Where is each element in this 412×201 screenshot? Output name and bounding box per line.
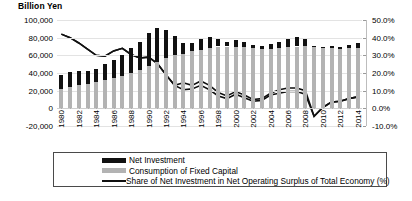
bar-segment-consumption-fixed-capital	[286, 47, 290, 108]
y2-axis-tick-mark	[363, 91, 366, 92]
right-axis-line	[366, 20, 367, 126]
y-axis-right: 50.0%40.0%30.0%20.0%10.0%0.0%-10.0%	[366, 20, 412, 126]
x-axis-tick-label: 2006	[284, 110, 293, 128]
figure-caption	[0, 189, 412, 201]
bar-segment-net-investment	[190, 43, 194, 52]
y-axis-left: 100,00080,00060,00040,00020,0000-20,000	[0, 20, 53, 126]
x-axis-tick-label: 2008	[301, 110, 310, 128]
bar-segment-consumption-fixed-capital	[68, 87, 72, 109]
x-axis-tick-mark	[175, 107, 176, 109]
chart-legend: Net Investment Consumption of Fixed Capi…	[53, 152, 387, 187]
bar-segment-net-investment	[155, 28, 159, 62]
x-axis-tick-mark	[227, 107, 228, 109]
bar-segment-net-investment	[356, 43, 360, 47]
x-axis-tick-mark	[323, 107, 324, 109]
bar-segment-consumption-fixed-capital	[251, 48, 255, 108]
bar-segment-consumption-fixed-capital	[242, 47, 246, 108]
bar-segment-net-investment	[164, 30, 168, 57]
bar-segment-net-investment	[199, 39, 203, 49]
x-axis-tick-mark	[314, 107, 315, 109]
bar-segment-net-investment	[68, 72, 72, 87]
bar-segment-net-investment	[312, 46, 316, 47]
bar-segment-net-investment	[138, 42, 142, 71]
bar-segment-net-investment	[251, 45, 255, 48]
x-axis-tick-label: 2012	[336, 110, 345, 128]
x-axis-tick-label: 2000	[232, 110, 241, 128]
bar-segment-consumption-fixed-capital	[216, 47, 220, 109]
x-axis-tick-mark	[79, 107, 80, 109]
x-axis-tick-mark	[149, 107, 150, 109]
bar-segment-consumption-fixed-capital	[338, 49, 342, 109]
y2-axis-tick-label: 50.0%	[372, 16, 395, 25]
x-axis-tick-label: 1992	[162, 110, 171, 128]
bar-segment-consumption-fixed-capital	[103, 80, 107, 109]
chart-container: Billion Yen 100,00080,00060,00040,00020,…	[0, 0, 412, 201]
x-axis-tick-mark	[140, 107, 141, 109]
bar-segment-consumption-fixed-capital	[303, 46, 307, 109]
bar-segment-consumption-fixed-capital	[330, 48, 334, 108]
y2-axis-tick-label: 0.0%	[372, 104, 390, 113]
bar-segment-consumption-fixed-capital	[356, 48, 360, 109]
x-axis-tick-label: 2010	[319, 110, 328, 128]
bar-segment-consumption-fixed-capital	[129, 73, 133, 108]
bar-segment-consumption-fixed-capital	[181, 54, 185, 109]
y2-axis-tick-label: 10.0%	[372, 86, 395, 95]
x-axis-tick-mark	[271, 107, 272, 109]
x-axis-tick-mark	[253, 107, 254, 109]
bar-segment-net-investment	[277, 42, 281, 49]
x-axis-tick-mark	[297, 107, 298, 109]
x-axis-labels: 1980198219841986198819901992199419961998…	[57, 107, 362, 149]
x-axis-tick-mark	[288, 107, 289, 109]
x-axis-tick-label: 1980	[57, 110, 66, 128]
bar-segment-net-investment	[234, 40, 238, 47]
bar-segment-net-investment	[303, 39, 307, 45]
legend-swatch-net-investment	[102, 158, 126, 163]
x-axis-tick-label: 1984	[92, 110, 101, 128]
x-axis-tick-mark	[192, 107, 193, 109]
bar-segment-consumption-fixed-capital	[347, 48, 351, 108]
legend-item: Net Investment	[54, 155, 386, 166]
x-axis-tick-label: 2004	[267, 110, 276, 128]
legend-label: Share of Net Investment in Net Operating…	[126, 176, 390, 186]
bar-segment-consumption-fixed-capital	[147, 66, 151, 108]
bar-segment-consumption-fixed-capital	[269, 49, 273, 109]
y2-axis-tick-label: 20.0%	[372, 69, 395, 78]
y2-axis-tick-mark	[363, 20, 366, 21]
x-axis-tick-label: 1988	[127, 110, 136, 128]
bar-segment-net-investment	[286, 39, 290, 47]
bar-segment-consumption-fixed-capital	[164, 58, 168, 109]
x-axis-tick-label: 2014	[354, 110, 363, 128]
bar-segment-consumption-fixed-capital	[199, 50, 203, 109]
bar-segment-consumption-fixed-capital	[225, 47, 229, 109]
bar-segment-consumption-fixed-capital	[173, 55, 177, 108]
bar-segment-net-investment	[112, 60, 116, 78]
x-axis-tick-label: 1982	[75, 110, 84, 128]
x-axis-tick-mark	[114, 107, 115, 109]
y-axis-tick-label: 20,000	[29, 86, 53, 95]
x-axis-tick-mark	[166, 107, 167, 109]
x-axis-tick-mark	[236, 107, 237, 109]
x-axis-tick-mark	[262, 107, 263, 109]
bar-segment-net-investment	[295, 37, 299, 47]
x-axis-tick-mark	[183, 107, 184, 109]
bar-segment-consumption-fixed-capital	[208, 48, 212, 109]
x-axis-tick-mark	[340, 107, 341, 109]
bar-segment-consumption-fixed-capital	[59, 89, 63, 108]
bar-segment-consumption-fixed-capital	[234, 47, 238, 108]
x-axis-tick-mark	[305, 107, 306, 109]
y2-axis-tick-label: -10.0%	[372, 122, 397, 131]
bar-segment-net-investment	[147, 33, 151, 66]
x-axis-tick-mark	[210, 107, 211, 109]
y2-axis-tick-label: 40.0%	[372, 33, 395, 42]
x-axis-tick-label: 1998	[214, 110, 223, 128]
x-axis-tick-mark	[105, 107, 106, 109]
x-axis-tick-label: 2002	[249, 110, 258, 128]
bar-segment-net-investment	[338, 47, 342, 49]
x-axis-tick-mark	[358, 107, 359, 109]
y2-axis-tick-mark	[363, 55, 366, 56]
x-axis-tick-mark	[70, 107, 71, 109]
y-axis-tick-label: 0	[49, 104, 53, 113]
bar-segment-consumption-fixed-capital	[138, 70, 142, 108]
bar-segment-net-investment	[330, 46, 334, 48]
bar-segment-net-investment	[225, 42, 229, 47]
